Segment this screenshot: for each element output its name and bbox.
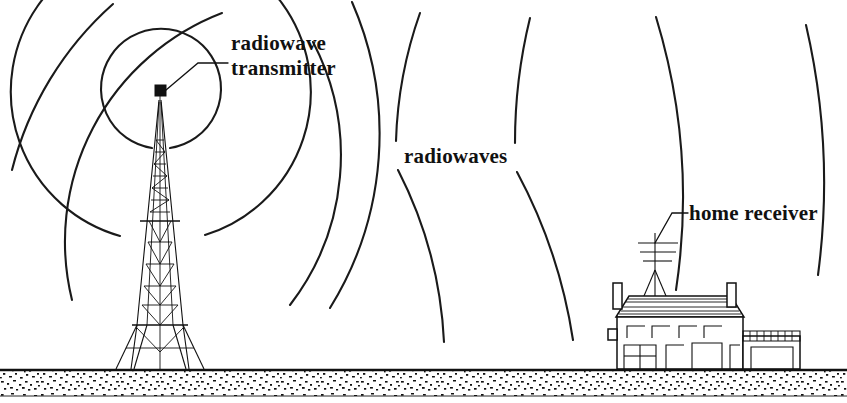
- home-receiver-house: [608, 233, 800, 369]
- radiowave-diagram: radiowave transmitter radiowaves home re…: [0, 0, 847, 403]
- wave-arc-5-upper: [396, 13, 420, 141]
- wave-arc-4-left: [12, 4, 113, 170]
- radiowave-arcs: [11, 0, 824, 342]
- diagram-canvas: radiowave transmitter radiowaves home re…: [0, 0, 847, 403]
- label-radiowaves: radiowaves: [404, 144, 508, 168]
- wave-arc-4-right: [330, 2, 380, 308]
- wave-arc-7: [656, 17, 683, 290]
- wave-arc-5-lower: [398, 170, 444, 342]
- house-body: [617, 317, 743, 369]
- transmitter-emitter-box: [155, 85, 166, 96]
- wave-arc-3-right: [290, 42, 341, 305]
- wave-arc-6-lower: [517, 172, 573, 340]
- label-radiowave-transmitter-line1: radiowave: [231, 31, 326, 55]
- ground-band: [0, 369, 847, 396]
- television-antenna: [638, 233, 678, 303]
- label-radiowave-transmitter-line2: transmitter: [231, 56, 336, 80]
- wave-arc-6-upper: [515, 18, 530, 143]
- house-chimney-right: [727, 283, 736, 307]
- ground-stipple: [0, 369, 847, 396]
- house-side-box: [608, 329, 617, 340]
- wave-arc-8: [806, 25, 824, 275]
- radio-transmitter-tower: [116, 85, 204, 369]
- house-chimney-left: [613, 283, 622, 309]
- diagram-labels: radiowave transmitter radiowaves home re…: [231, 31, 818, 225]
- label-home-receiver: home receiver: [689, 201, 818, 225]
